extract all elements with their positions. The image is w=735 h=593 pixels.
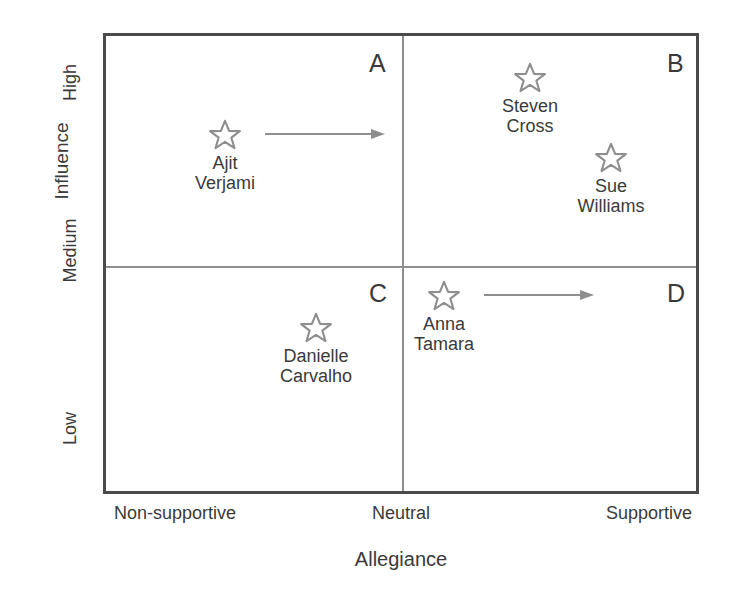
x-axis-title: Allegiance <box>103 548 699 571</box>
stakeholder-marker-steven-cross[interactable]: Steven Cross <box>445 61 615 136</box>
quadrant-label-a: A <box>369 51 386 76</box>
star-icon <box>513 61 547 95</box>
quadrant-label-d: D <box>667 281 685 306</box>
y-axis-tick-high: High <box>60 28 81 138</box>
x-axis-tick-supportive: Supportive <box>606 503 692 524</box>
star-icon <box>594 141 628 175</box>
star-icon <box>427 279 461 313</box>
y-axis-tick-medium: Medium <box>60 196 81 306</box>
x-axis-tick-non-supportive: Non-supportive <box>114 503 236 524</box>
horizontal-divider <box>106 266 696 268</box>
stakeholder-marker-sue-williams[interactable]: Sue Williams <box>526 141 696 216</box>
vertical-divider <box>402 36 404 491</box>
plot-area: A B C D Ajit Verjami <box>103 33 699 494</box>
stakeholder-name: Steven Cross <box>445 96 615 136</box>
star-icon <box>299 311 333 345</box>
y-axis-tick-low: Low <box>60 374 81 484</box>
movement-arrow-ajit-verjami <box>265 127 385 145</box>
movement-arrow-anna-tamara <box>484 288 594 306</box>
stakeholder-name: Ajit Verjami <box>140 153 310 193</box>
stakeholder-matrix-chart: Influence High Medium Low A B C D Ajit V… <box>0 0 735 593</box>
x-axis-tick-neutral: Neutral <box>372 503 430 524</box>
star-icon <box>208 118 242 152</box>
quadrant-label-b: B <box>667 51 684 76</box>
stakeholder-name: Sue Williams <box>526 176 696 216</box>
stakeholder-name: Anna Tamara <box>359 314 529 354</box>
